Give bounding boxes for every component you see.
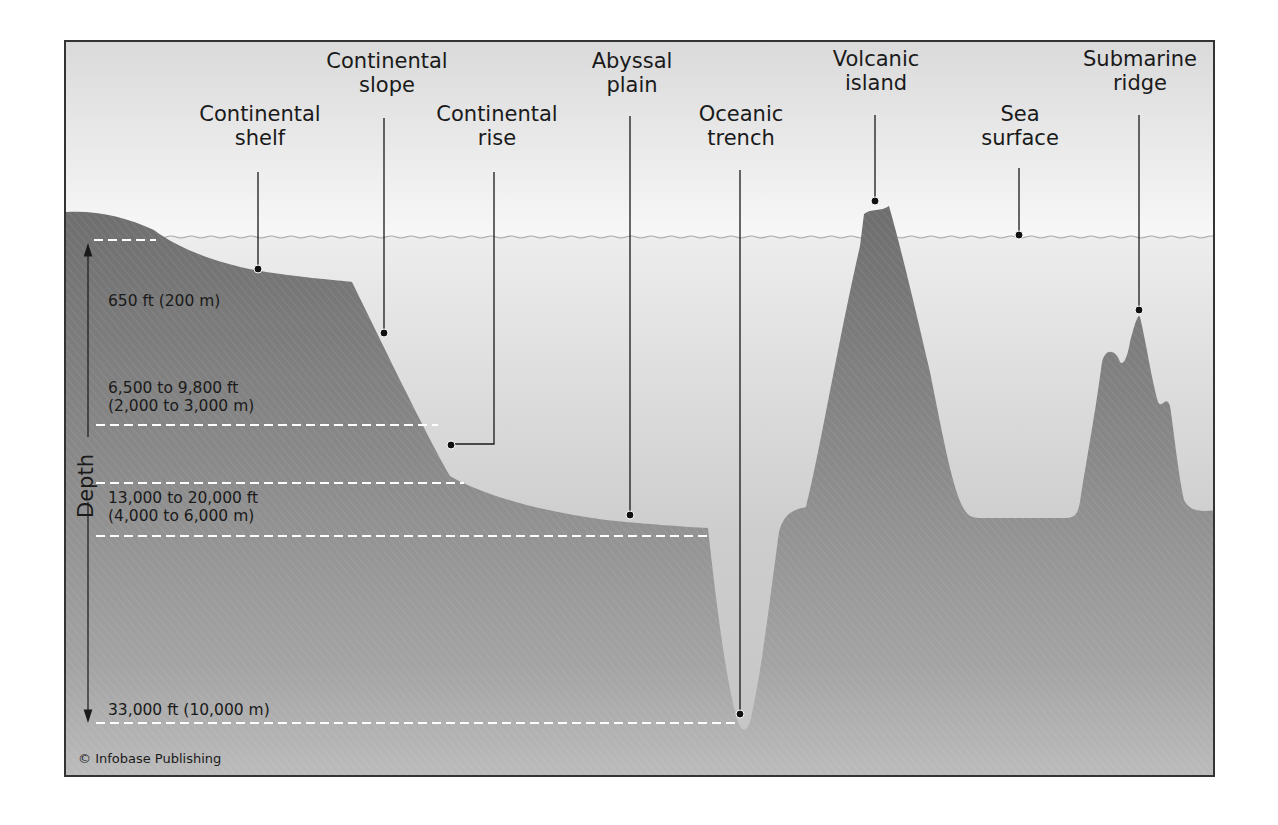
label-submarine-ridge: Submarine ridge bbox=[1083, 47, 1197, 95]
copyright-credit: © Infobase Publishing bbox=[78, 751, 221, 766]
label-continental-rise: Continental rise bbox=[436, 102, 557, 150]
label-sea-surface: Sea surface bbox=[981, 102, 1059, 150]
label-oceanic-trench: Oceanic trench bbox=[699, 102, 784, 150]
label-continental-slope: Continental slope bbox=[326, 49, 447, 97]
depth-marker-13000-20000ft: 13,000 to 20,000 ft (4,000 to 6,000 m) bbox=[108, 489, 258, 525]
diagram-frame: Continental shelf Continental slope Cont… bbox=[64, 40, 1215, 777]
label-volcanic-island: Volcanic island bbox=[833, 47, 920, 95]
depth-marker-33000ft: 33,000 ft (10,000 m) bbox=[108, 701, 270, 719]
label-continental-shelf: Continental shelf bbox=[199, 102, 320, 150]
depth-axis-label: Depth bbox=[74, 454, 98, 518]
depth-marker-6500-9800ft: 6,500 to 9,800 ft (2,000 to 3,000 m) bbox=[108, 379, 254, 415]
depth-marker-650ft: 650 ft (200 m) bbox=[108, 292, 220, 310]
label-abyssal-plain: Abyssal plain bbox=[592, 49, 673, 97]
